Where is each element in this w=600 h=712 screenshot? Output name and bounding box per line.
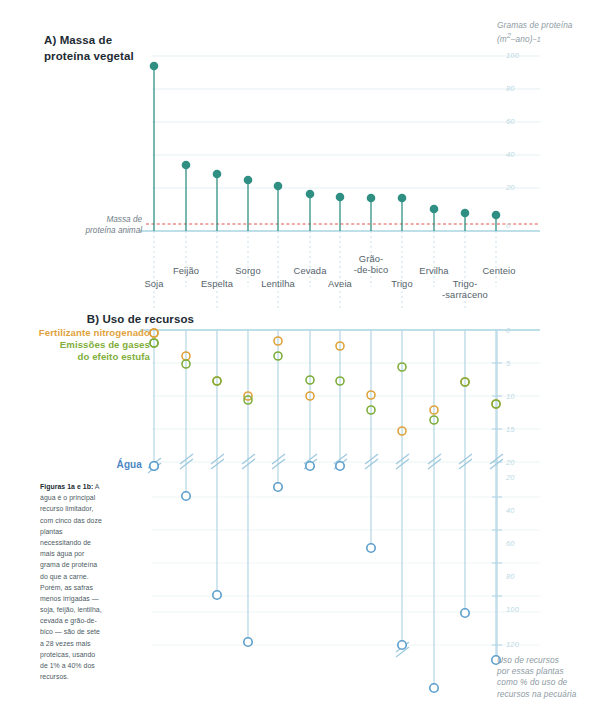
category-label-sorgo: Sorgo [222,265,274,276]
category-label-centeio: Centeio [470,265,528,276]
datapoint-grao-de-bico [367,194,376,203]
water-cevada [306,462,314,470]
category-label-feijao: Feijão [160,265,212,276]
datapoint-cevada [306,190,315,199]
panel-b-title: B) Uso de recursos [44,312,194,328]
water-aveia [336,462,344,470]
water-trigo-sarraceno [461,609,469,617]
axis-break-marks [148,454,503,657]
tick-b-20u: 20 [506,458,515,467]
datapoint-feijao [182,161,191,170]
water-ervilha [430,684,438,692]
water-espelta [213,591,221,599]
category-label-espelta: Espelta [189,278,245,289]
caption-heading: Figuras 1a e 1b: [40,483,93,490]
category-label-aveia: Aveia [315,278,365,289]
tick-b-10: 10 [506,392,515,401]
animal-protein-label: Massa deproteína animal [60,214,142,236]
tick-a-40: 40 [506,150,515,159]
tick-b-15: 15 [506,425,515,434]
water-feijao [182,492,190,500]
tick-a-0: 0 [506,221,510,230]
category-label-grao-de-bico: Grão--de-bico [343,253,399,275]
category-label-lentilha: Lentilha [249,278,307,289]
tick-b-20l: 20 [506,473,515,482]
legend-water-label: Água [60,458,142,471]
water-sorgo [244,638,252,646]
datapoint-trigo [398,194,407,203]
figure-caption: Figuras 1a e 1b: A água é o principal re… [40,481,102,682]
figure-container: A) Massa deproteína vegetal Gramas de pr… [0,0,600,712]
panel-a-datapoints [150,62,501,220]
nitrogen-markers [150,329,500,435]
datapoint-centeio [492,211,501,220]
panel-b-gridlines [152,363,540,645]
datapoint-trigo-sarraceno [461,209,470,218]
panel-b-crop-axes [154,330,496,688]
panel-a-gridlines [152,56,540,188]
tick-a-100: 100 [506,51,519,60]
tick-b-5: 5 [506,359,510,368]
category-label-ervilha: Ervilha [406,265,462,276]
legend-ghg-label: Emissões de gasesdo efeito estufa [8,339,150,364]
category-label-trigo-sarraceno: Trigo--sarraceno [436,278,494,300]
datapoint-aveia [336,193,345,202]
category-label-trigo: Trigo [377,278,427,289]
datapoint-lentilha [274,182,283,191]
category-label-soja: Soja [130,278,178,289]
tick-b-0: 0 [506,326,510,335]
tick-b-60: 60 [506,539,515,548]
tick-a-60: 60 [506,117,515,126]
legend-water-marker [150,462,158,470]
ghg-markers [150,339,500,424]
datapoint-sorgo [244,176,253,185]
tick-b-120: 120 [506,640,519,649]
caption-body: A água é o principal recurso limitador, … [40,483,102,680]
tick-b-100: 100 [506,605,519,614]
panel-a-units-label: Gramas de proteína(m2–ano)−1 [497,20,597,45]
tick-b-40: 40 [506,506,515,515]
panel-a-stems [154,66,496,231]
tick-a-80: 80 [506,84,515,93]
datapoint-ervilha [430,205,439,214]
tick-b-80: 80 [506,572,515,581]
panel-a-title: A) Massa deproteína vegetal [44,33,164,64]
legend-nitrogen-label: Fertilizante nitrogenado [8,327,150,339]
water-trigo [398,641,406,649]
water-grao-de-bico [367,544,375,552]
tick-a-20: 20 [506,183,515,192]
category-label-cevada: Cevada [282,265,338,276]
water-lentilha [274,483,282,491]
datapoint-espelta [213,170,222,179]
panel-b-units-label: Uso de recursospor essas plantascomo % d… [497,655,600,700]
